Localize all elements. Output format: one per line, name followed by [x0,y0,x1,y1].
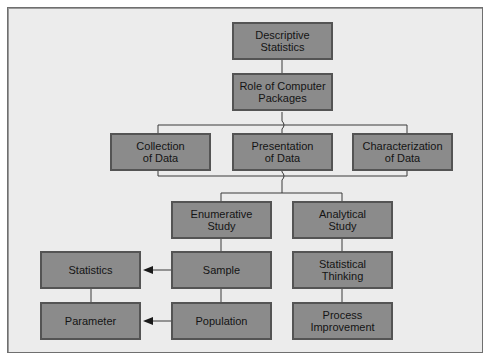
node-characterization-of-data: Characterization of Data [352,133,453,171]
node-enumerative-study: Enumerative Study [171,201,272,239]
node-population: Population [171,302,272,340]
node-descriptive-statistics: Descriptive Statistics [232,22,333,60]
node-role-of-computer-packages: Role of Computer Packages [232,73,333,111]
node-sample: Sample [171,251,272,289]
node-statistics: Statistics [40,251,141,289]
node-presentation-of-data: Presentation of Data [232,133,333,171]
node-statistical-thinking: Statistical Thinking [292,251,393,289]
node-process-improvement: Process Improvement [292,302,393,340]
node-collection-of-data: Collection of Data [110,133,211,171]
node-parameter: Parameter [40,302,141,340]
node-analytical-study: Analytical Study [292,201,393,239]
